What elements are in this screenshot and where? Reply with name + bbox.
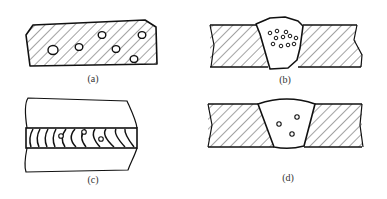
panel-c-drawing — [25, 98, 137, 172]
panel-a-drawing — [26, 20, 157, 66]
panel-c-label: (c) — [87, 174, 98, 185]
panel-d-label: (d) — [282, 172, 294, 183]
panel-b-drawing — [210, 17, 364, 69]
panel-b-label: (b) — [279, 74, 291, 85]
panel-d-drawing — [208, 99, 363, 148]
weld-porosity-diagram — [0, 0, 387, 199]
panel-a-label: (a) — [87, 73, 98, 84]
